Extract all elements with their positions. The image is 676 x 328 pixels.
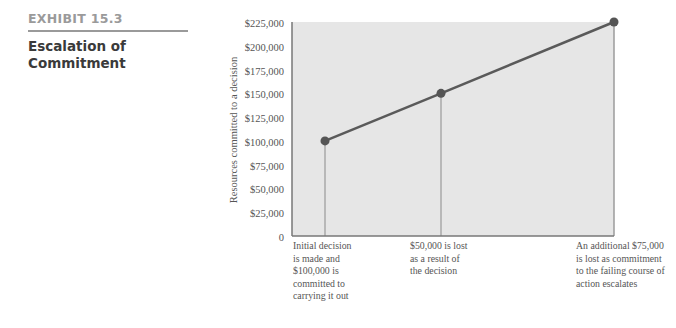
x-annotation-line: to the failing course of [576, 265, 665, 278]
x-annotation-line: is made and [293, 253, 352, 266]
x-annotation-line: the decision [410, 265, 467, 278]
x-annotation: Initial decisionis made and$100,000 isco… [293, 240, 352, 303]
x-annotation: An additional $75,000is lost as commitme… [576, 240, 665, 290]
data-point-marker [321, 136, 330, 145]
data-point-marker [610, 18, 619, 27]
x-annotation-line: $50,000 is lost [410, 240, 467, 253]
x-annotation-line: action escalates [576, 278, 665, 291]
x-annotation-line: $100,000 is [293, 265, 352, 278]
plot-area [292, 22, 614, 236]
x-annotation: $50,000 is lostas a result ofthe decisio… [410, 240, 467, 278]
x-annotation-line: is lost as commitment [576, 253, 665, 266]
data-point-marker [437, 89, 446, 98]
x-annotation-line: Initial decision [293, 240, 352, 253]
x-annotation-line: as a result of [410, 253, 467, 266]
x-annotation-line: An additional $75,000 [576, 240, 665, 253]
x-annotation-line: committed to [293, 278, 352, 291]
x-annotation-line: carrying it out [293, 290, 352, 303]
